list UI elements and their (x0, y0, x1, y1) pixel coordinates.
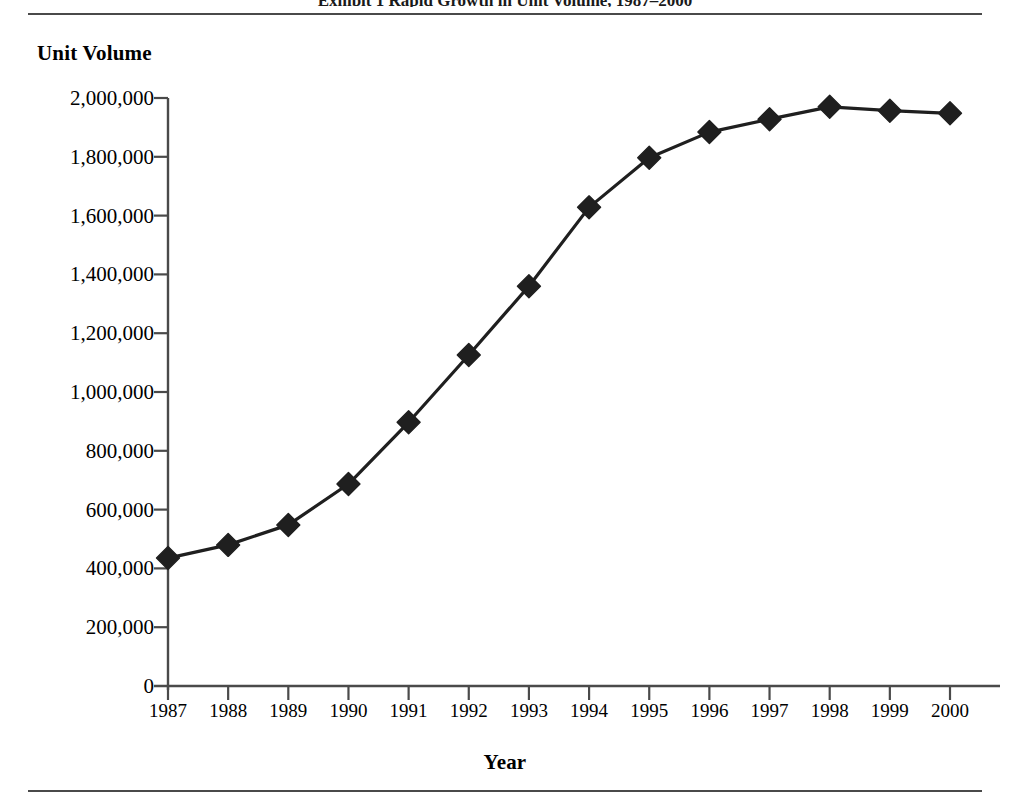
data-point-marker (698, 121, 721, 144)
data-point-marker (758, 108, 781, 131)
chart-axes (154, 98, 1000, 700)
y-tick-label: 200,000 (14, 615, 154, 640)
data-point-marker (157, 547, 180, 570)
y-tick-label: 0 (14, 674, 154, 699)
y-tick-label: 800,000 (14, 438, 154, 463)
line-chart: 0200,000400,000600,000800,0001,000,0001,… (0, 0, 1010, 811)
bottom-divider-rule (28, 790, 982, 792)
data-point-marker (818, 95, 841, 118)
y-tick-label: 1,200,000 (14, 321, 154, 346)
y-tick-label: 1,400,000 (14, 262, 154, 287)
y-tick-label: 400,000 (14, 556, 154, 581)
unit-volume-series (157, 95, 962, 569)
data-point-marker (939, 102, 962, 125)
y-tick-label: 2,000,000 (14, 86, 154, 111)
y-tick-label: 1,800,000 (14, 144, 154, 169)
data-point-marker (277, 513, 300, 536)
x-tick-label: 2000 (915, 700, 985, 722)
data-point-marker (878, 99, 901, 122)
data-point-marker (217, 533, 240, 556)
y-tick-label: 600,000 (14, 497, 154, 522)
y-tick-label: 1,000,000 (14, 380, 154, 405)
x-axis-title: Year (0, 750, 1010, 775)
y-tick-label: 1,600,000 (14, 203, 154, 228)
